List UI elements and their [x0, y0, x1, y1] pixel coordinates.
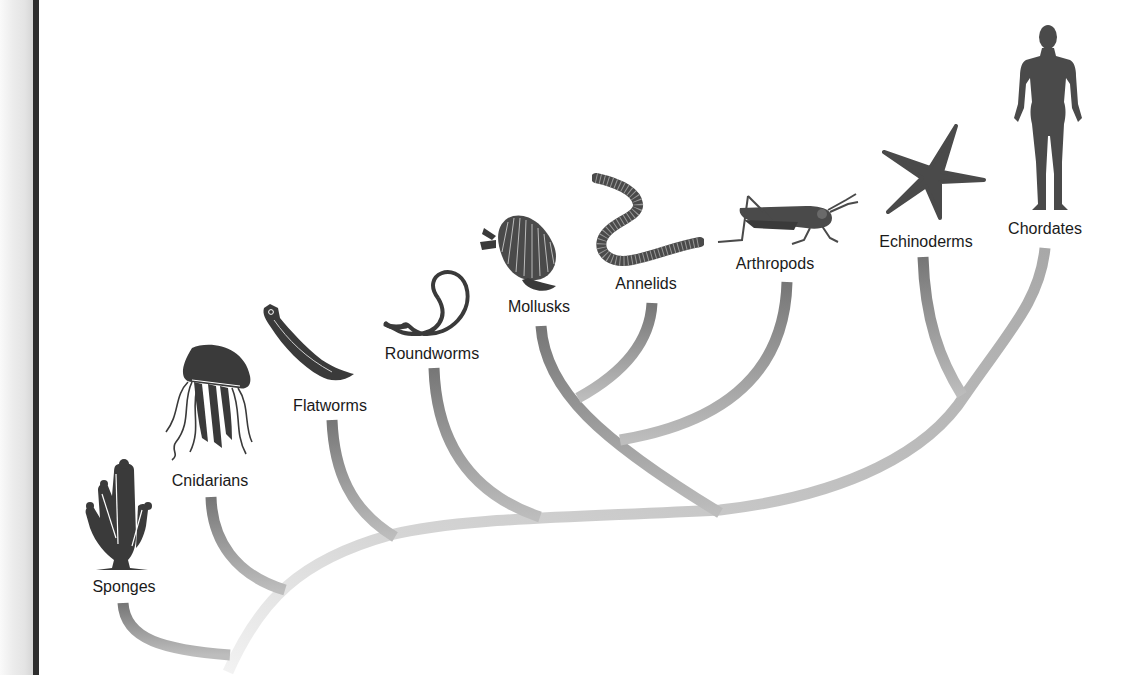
branch-flatworms	[332, 420, 395, 537]
sponge-icon	[82, 456, 162, 576]
taxon-label-chordates: Chordates	[1008, 220, 1082, 238]
flatworm-icon	[260, 302, 356, 384]
taxon-label-flatworms: Flatworms	[293, 397, 367, 415]
branch-echinoderms	[923, 257, 962, 395]
taxon-label-arthropods: Arthropods	[736, 255, 814, 273]
taxon-label-echinoderms: Echinoderms	[879, 233, 972, 251]
starfish-icon	[882, 124, 986, 220]
grasshopper-icon	[714, 192, 860, 250]
branch-sponges	[123, 603, 230, 655]
taxon-label-mollusks: Mollusks	[508, 298, 570, 316]
roundworm-icon	[380, 256, 470, 338]
taxon-label-annelids: Annelids	[615, 275, 676, 293]
branch-cnidarians	[211, 497, 285, 590]
branch-annelids	[578, 303, 652, 398]
phylogenetic-tree-branches	[0, 0, 1136, 675]
taxon-label-sponges: Sponges	[92, 578, 155, 596]
clam-icon	[478, 212, 564, 296]
taxon-label-roundworms: Roundworms	[385, 345, 479, 363]
jellyfish-icon	[162, 342, 254, 464]
taxon-label-cnidarians: Cnidarians	[172, 472, 248, 490]
branch-roundworms	[434, 368, 540, 517]
human-icon	[1012, 24, 1084, 214]
branch-arthropods	[620, 282, 787, 440]
earthworm-icon	[592, 172, 704, 268]
